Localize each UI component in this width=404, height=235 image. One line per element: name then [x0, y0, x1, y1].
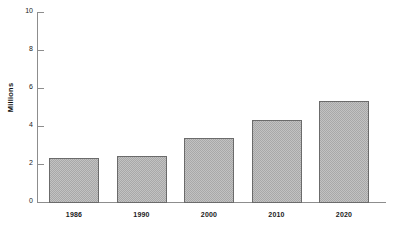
y-axis-tick	[37, 202, 44, 203]
x-axis-label-1990: 1990	[117, 211, 167, 218]
y-axis-tick	[37, 164, 44, 165]
bar-2010	[252, 120, 302, 203]
x-axis-label-2000: 2000	[184, 211, 234, 218]
x-axis-label-1986: 1986	[49, 211, 99, 218]
y-axis-tick-label: 4	[0, 121, 33, 128]
y-axis-tick	[37, 126, 44, 127]
y-axis-title: Millions	[6, 73, 15, 123]
bar-chart: Millions 0246810 19861990200020102020	[0, 0, 404, 235]
y-axis-tick-label: 10	[0, 7, 33, 14]
bar-1990	[117, 156, 167, 203]
y-axis-tick	[37, 88, 44, 89]
y-axis-tick-label: 0	[0, 197, 33, 204]
bar-2000	[184, 138, 234, 203]
x-axis-label-2010: 2010	[252, 211, 302, 218]
y-axis-tick	[37, 50, 44, 51]
y-axis-tick-label: 8	[0, 45, 33, 52]
bar-1986	[49, 158, 99, 203]
y-axis-line	[37, 12, 38, 203]
y-axis-tick	[37, 12, 44, 13]
bar-2020	[319, 101, 369, 203]
x-axis-label-2020: 2020	[319, 211, 369, 218]
y-axis-tick-label: 2	[0, 159, 33, 166]
y-axis-tick-label: 6	[0, 83, 33, 90]
